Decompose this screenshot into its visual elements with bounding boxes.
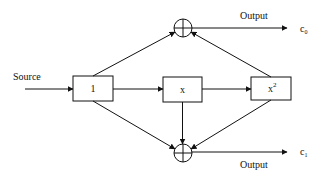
block-x-label: x [180,84,185,95]
arrow-1-to-bottom-summer [93,101,175,149]
block-1: 1 [73,76,113,101]
output-c0: c0 [300,23,307,35]
summer-bottom [174,144,192,162]
output-top-label: Output [240,10,268,21]
source-label: Source [13,71,41,82]
block-x-squared: x2 [251,77,291,100]
arrow-1-to-top-summer [93,32,175,76]
block-x: x [163,77,202,102]
arrow-x2-to-top-summer [191,32,271,77]
block-1-label: 1 [91,83,96,94]
output-bottom-label: Output [240,159,268,170]
arrow-x2-to-bottom-summer [191,100,271,149]
block-diagram: Source 1 x x2 Output c0 Output c1 [0,0,323,177]
output-c1: c1 [300,146,307,158]
summer-top [174,19,192,37]
